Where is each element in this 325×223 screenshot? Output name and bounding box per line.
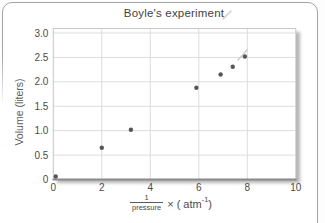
- boyle-chart-svg: 024681000.51.01.52.02.53.0: [0, 0, 325, 223]
- x-axis-fraction: 1 pressure: [130, 193, 163, 213]
- y-axis-label: Volume (liters): [13, 78, 25, 145]
- x-axis-label: 1 pressure × ( atm-1): [130, 193, 212, 213]
- y-tick-label: 0: [43, 174, 49, 185]
- x-tick-label: 0: [51, 182, 57, 193]
- y-tick-label: 0.5: [34, 150, 48, 161]
- y-tick-label: 2.0: [34, 76, 48, 87]
- x-axis-unit: × ( atm-1): [167, 196, 212, 210]
- y-tick-label: 3.0: [34, 28, 48, 39]
- y-tick-label: 1.0: [34, 125, 48, 136]
- data-point: [129, 127, 133, 131]
- x-tick-label: 6: [196, 182, 202, 193]
- plot-area: [53, 29, 295, 180]
- fraction-denominator: pressure: [130, 202, 163, 212]
- data-point: [100, 146, 104, 150]
- y-tick-label: 1.5: [34, 101, 48, 112]
- data-point: [194, 85, 198, 89]
- data-point: [231, 64, 235, 68]
- y-tick-label: 2.5: [34, 52, 48, 63]
- x-tick-label: 2: [99, 182, 105, 193]
- x-tick-label: 10: [290, 182, 302, 193]
- data-point: [218, 72, 222, 76]
- fraction-numerator: 1: [144, 193, 148, 202]
- data-point: [54, 174, 58, 178]
- unit-exponent: -1: [202, 195, 209, 204]
- x-tick-label: 8: [245, 182, 251, 193]
- chart-title: Boyle's experiment: [124, 7, 224, 19]
- x-tick-label: 4: [148, 182, 154, 193]
